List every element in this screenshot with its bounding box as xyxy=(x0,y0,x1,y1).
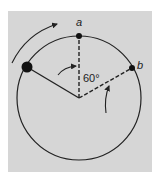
point-b-dot xyxy=(129,65,135,71)
label-b: b xyxy=(137,60,143,71)
radius-to-mass xyxy=(27,67,79,98)
angle-arrow-right-icon xyxy=(105,86,109,113)
angle-label: 60° xyxy=(83,73,100,84)
point-a-dot xyxy=(76,33,82,39)
mass-dot xyxy=(22,62,33,73)
angle-arrow-left-icon xyxy=(58,66,76,75)
label-a: a xyxy=(76,17,82,28)
